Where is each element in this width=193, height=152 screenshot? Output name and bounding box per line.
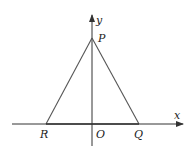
segment-PQ [92,38,139,124]
triangle-diagram: y x P R O Q [0,0,193,152]
point-Q-label: Q [134,128,143,141]
y-axis-label: y [95,14,103,27]
origin-label: O [96,128,105,141]
point-R-label: R [39,128,48,141]
point-P-label: P [97,32,106,45]
x-axis-label: x [174,109,181,122]
segment-PR [46,38,92,124]
